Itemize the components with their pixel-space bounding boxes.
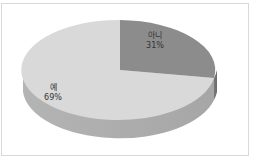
- label-name-yes: 예: [42, 83, 64, 93]
- label-pct-no: 31%: [143, 41, 167, 51]
- pie-slice-no[interactable]: [120, 20, 215, 78]
- data-label-yes: 예 69%: [42, 83, 64, 103]
- label-name-no: 아니: [143, 31, 167, 41]
- label-pct-yes: 69%: [42, 93, 64, 103]
- data-label-no: 아니 31%: [143, 31, 167, 51]
- pie-chart-3d: [0, 0, 257, 166]
